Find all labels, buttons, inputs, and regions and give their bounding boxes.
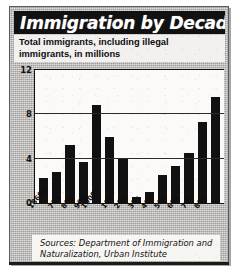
- x-label-slot: 80s: [195, 205, 208, 233]
- bar-series: [35, 70, 224, 203]
- bar-slot: [37, 70, 50, 203]
- bar: [105, 137, 114, 204]
- bar: [198, 122, 207, 203]
- bottom-rule: [9, 262, 229, 265]
- y-axis: 04812: [10, 63, 32, 211]
- subtitle-box: Total immigrants, including illegal immi…: [14, 35, 225, 62]
- bar-slot: [116, 70, 129, 203]
- bar-slot: [77, 70, 90, 203]
- bar-slot: [103, 70, 116, 203]
- source-citation: Sources: Department of Immigration and N…: [40, 238, 214, 260]
- chart-subtitle: Total immigrants, including illegal immi…: [19, 37, 220, 60]
- bar-slot: [143, 70, 156, 203]
- plot-area: [34, 69, 224, 204]
- title-bar: Immigration by Decade: [14, 11, 225, 34]
- x-label-slot: 70s: [182, 205, 195, 233]
- x-label-slot: 1860s: [36, 205, 49, 233]
- x-label-slot: 60s: [169, 205, 182, 233]
- bar-slot: [182, 70, 195, 203]
- x-label-slot: 70s: [49, 205, 62, 233]
- chart-figure: Immigration by Decade Total immigrants, …: [9, 6, 229, 264]
- x-label-slot: 1900s: [89, 205, 102, 233]
- bar-slot: [130, 70, 143, 203]
- source-box: Sources: Department of Immigration and N…: [32, 235, 220, 261]
- bar-slot: [209, 70, 222, 203]
- x-label-slot: 40s: [142, 205, 155, 233]
- bar-slot: [169, 70, 182, 203]
- x-label-slot: 10s: [102, 205, 115, 233]
- page-title: Immigration by Decade: [20, 13, 225, 33]
- x-label-slot: 30s: [129, 205, 142, 233]
- y-axis-tick-label: 12: [12, 65, 32, 75]
- x-label-slot: [209, 205, 222, 233]
- gridline: [35, 113, 224, 114]
- y-axis-tick-label: 8: [12, 109, 32, 119]
- x-label-slot: 50s: [156, 205, 169, 233]
- bar-slot: [90, 70, 103, 203]
- x-axis-labels: 1860s70s80s90s1900s10s20s30s40s50s60s70s…: [34, 205, 224, 233]
- x-label-slot: 80s: [63, 205, 76, 233]
- x-label-slot: 20s: [116, 205, 129, 233]
- y-axis-tick-label: 4: [12, 154, 32, 164]
- bar-slot: [156, 70, 169, 203]
- bar-slot: [50, 70, 63, 203]
- bar-slot: [196, 70, 209, 203]
- bar-slot: [63, 70, 76, 203]
- gridline: [35, 158, 224, 159]
